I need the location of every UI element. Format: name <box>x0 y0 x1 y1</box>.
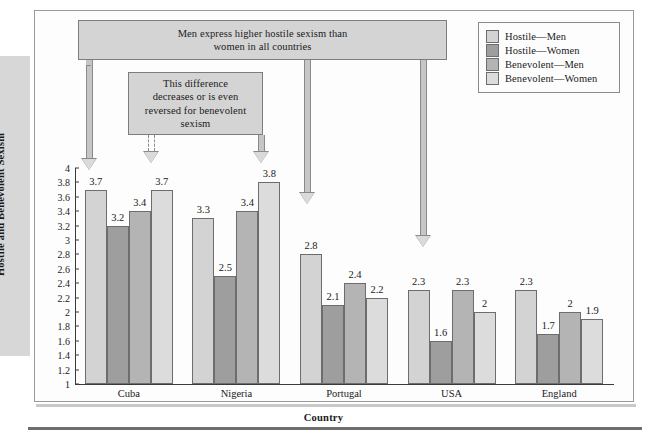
y-axis-tick-mark <box>75 225 79 226</box>
y-axis-tick-mark <box>75 196 79 197</box>
x-axis-group-label: Portugal <box>326 388 362 399</box>
bar-value-label: 3.7 <box>155 176 168 187</box>
bar-value-label: 2.8 <box>304 240 317 251</box>
legend-swatch-benevolent-men <box>486 58 499 71</box>
y-axis-tick-label: 2.6 <box>0 263 75 274</box>
bar <box>474 312 496 384</box>
x-axis-group-label: Nigeria <box>221 388 253 399</box>
y-axis-tick-label: 3.8 <box>0 177 75 188</box>
legend-label: Benevolent—Men <box>505 59 584 70</box>
bar-value-label: 3.8 <box>263 168 276 179</box>
y-axis-tick-label: 1 <box>0 379 75 390</box>
bar-value-label: 1.7 <box>542 320 555 331</box>
y-axis-tick-mark <box>75 268 79 269</box>
annotation-connector <box>148 135 155 151</box>
bar <box>322 305 344 384</box>
bar <box>537 334 559 384</box>
y-axis-tick-label: 3.4 <box>0 206 75 217</box>
bar-value-label: 3.3 <box>197 204 210 215</box>
y-axis-tick-label: 3.6 <box>0 191 75 202</box>
legend-label: Hostile—Women <box>505 45 580 56</box>
annotation-connector <box>304 60 311 192</box>
bar <box>129 211 151 384</box>
bar <box>214 276 236 384</box>
annotation-connector <box>86 60 93 158</box>
y-axis-tick-label: 2 <box>0 307 75 318</box>
bar-value-label: 2.4 <box>348 269 361 280</box>
y-axis-tick-label: 3 <box>0 235 75 246</box>
y-axis-tick-mark <box>75 168 79 169</box>
bar-value-label: 3.2 <box>111 212 124 223</box>
bar <box>300 254 322 384</box>
bar <box>366 298 388 384</box>
x-axis-group-label: USA <box>441 388 462 399</box>
y-axis-tick-mark <box>75 340 79 341</box>
bar-value-label: 1.6 <box>434 327 447 338</box>
page-bottom-rule <box>28 427 642 430</box>
y-axis-tick-label: 2.4 <box>0 278 75 289</box>
y-axis-tick-label: 1.6 <box>0 335 75 346</box>
legend-label: Hostile—Men <box>505 31 566 42</box>
bar-value-label: 3.4 <box>241 197 254 208</box>
hostile-sexism-callout: Men express higher hostile sexism than w… <box>78 20 447 60</box>
bar <box>85 190 107 384</box>
legend-swatch-hostile-women <box>486 44 499 57</box>
y-axis-tick-mark <box>75 211 79 212</box>
legend-item: Hostile—Women <box>486 44 612 57</box>
legend-label: Benevolent—Women <box>505 73 597 84</box>
legend-item: Benevolent—Women <box>486 72 612 85</box>
bar <box>151 190 173 384</box>
y-axis-tick-label: 1.4 <box>0 350 75 361</box>
bar <box>107 226 129 384</box>
x-axis-line <box>75 384 614 385</box>
annotation-arrowhead-fill <box>82 159 96 170</box>
callout-top-line1: Men express higher hostile sexism than <box>178 28 348 39</box>
legend-item: Benevolent—Men <box>486 58 612 71</box>
bar-value-label: 2.3 <box>412 276 425 287</box>
bar <box>581 319 603 384</box>
bar-value-label: 2 <box>568 298 573 309</box>
annotation-connector <box>420 60 427 235</box>
y-axis-tick-mark <box>75 254 79 255</box>
bar <box>452 290 474 384</box>
y-axis-tick-mark <box>75 297 79 298</box>
annotation-arrowhead-fill <box>416 236 430 247</box>
callout-inner-line3: reversed for benevolent <box>145 105 246 116</box>
annotation-arrowhead-fill <box>254 152 268 163</box>
legend-swatch-benevolent-women <box>486 72 499 85</box>
bar <box>430 341 452 384</box>
bar-value-label: 2.3 <box>520 276 533 287</box>
legend-item: Hostile—Men <box>486 30 612 43</box>
annotation-connector <box>86 59 91 66</box>
bar-value-label: 3.7 <box>89 176 102 187</box>
y-axis-tick-mark <box>75 384 79 385</box>
y-axis-tick-mark <box>75 312 79 313</box>
y-axis-tick-label: 4 <box>0 163 75 174</box>
bar <box>236 211 258 384</box>
y-axis-line <box>75 168 76 385</box>
bar-value-label: 1.9 <box>586 305 599 316</box>
bar <box>408 290 430 384</box>
bar-value-label: 2.5 <box>219 262 232 273</box>
bar-value-label: 3.4 <box>133 197 146 208</box>
legend-swatch-hostile-men <box>486 30 499 43</box>
callout-inner-line1: This difference <box>163 78 228 89</box>
bar <box>515 290 537 384</box>
y-axis-tick-mark <box>75 369 79 370</box>
y-axis-tick-mark <box>75 283 79 284</box>
benevolent-sexism-callout: This difference decreases or is even rev… <box>128 72 263 135</box>
bar <box>192 218 214 384</box>
chart-legend: Hostile—Men Hostile—Women Benevolent—Men… <box>478 22 620 93</box>
callout-top-line2: women in all countries <box>213 41 311 52</box>
annotation-arrowhead-fill <box>144 152 158 163</box>
x-axis-group-label: Cuba <box>118 388 140 399</box>
y-axis-tick-label: 1.2 <box>0 364 75 375</box>
y-axis-tick-mark <box>75 182 79 183</box>
bar-value-label: 2.2 <box>370 284 383 295</box>
annotation-arrowhead-fill <box>300 193 314 204</box>
bar <box>258 182 280 384</box>
y-axis-tick-label: 2.2 <box>0 292 75 303</box>
y-axis-tick-label: 1.8 <box>0 321 75 332</box>
callout-inner-line4: sexism <box>181 118 211 129</box>
y-axis-tick-label: 3.2 <box>0 220 75 231</box>
